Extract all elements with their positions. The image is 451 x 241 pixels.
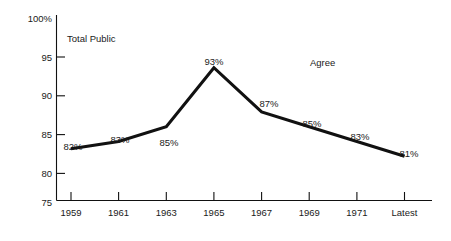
annotation-agree: Agree [310,57,335,68]
point-label-1961: 83% [110,134,130,145]
line-chart: 100% 95 90 85 80 75 1959 1961 1963 1965 … [0,0,451,241]
chart-canvas: 100% 95 90 85 80 75 1959 1961 1963 1965 … [0,0,451,241]
x-tick-label-1969: 1969 [299,207,320,218]
y-tick-label-95: 95 [41,52,52,63]
point-label-1969: 85% [302,118,322,129]
x-axis-labels: 1959 1961 1963 1965 1967 1969 1971 Lates… [60,207,417,218]
point-label-1967: 87% [259,98,279,109]
point-label-1971: 83% [350,131,370,142]
x-tick-label-1967: 1967 [251,207,272,218]
annotation-total-public: Total Public [67,33,116,44]
y-tick-label-90: 90 [41,90,52,101]
x-tick-label-1971: 1971 [346,207,367,218]
x-tick-label-1963: 1963 [156,207,177,218]
y-tick-label-100: 100% [28,13,53,24]
y-tick-label-80: 80 [41,168,52,179]
point-label-latest: 81% [399,148,419,159]
y-axis-labels: 100% 95 90 85 80 75 [28,13,53,208]
y-tick-label-75: 75 [41,197,52,208]
point-label-1965: 93% [204,56,224,67]
point-label-1963: 85% [159,137,179,148]
y-axis-ticks [57,57,66,173]
x-tick-label-1965: 1965 [203,207,224,218]
point-label-1959: 82% [63,141,83,152]
x-tick-label-1959: 1959 [60,207,81,218]
x-tick-label-latest: Latest [392,207,418,218]
x-axis-ticks [71,192,405,201]
x-tick-label-1961: 1961 [108,207,129,218]
y-tick-label-85: 85 [41,129,52,140]
